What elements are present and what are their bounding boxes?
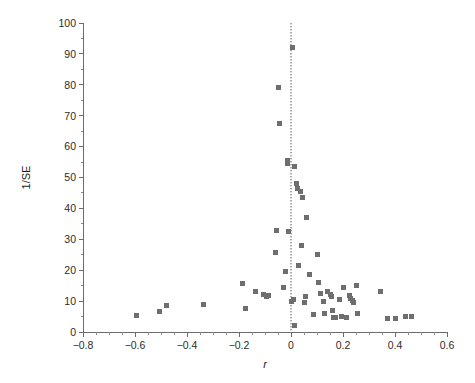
data-point (285, 161, 290, 166)
data-point (339, 314, 344, 319)
y-tick-label: 30 (64, 233, 76, 245)
data-point (292, 323, 297, 328)
y-tick-label: 0 (70, 326, 76, 338)
x-axis-title: r (263, 358, 268, 370)
x-tick-label: 0.6 (440, 339, 455, 351)
scatter-plot-canvas: 0102030405060708090100−0.8−0.6−0.4−0.200… (0, 0, 475, 383)
y-tick-label: 40 (64, 202, 76, 214)
data-point (385, 316, 390, 321)
data-point (299, 243, 304, 248)
data-point (337, 297, 342, 302)
data-point (378, 289, 383, 294)
data-point (286, 229, 291, 234)
data-point (330, 308, 335, 313)
data-point (273, 250, 278, 255)
data-point (283, 269, 288, 274)
y-tick-label: 20 (64, 264, 76, 276)
data-point (243, 306, 248, 311)
x-tick-label: −0.2 (229, 339, 250, 351)
y-tick-label: 90 (64, 48, 76, 60)
y-tick-label: 100 (58, 17, 76, 29)
data-point (355, 311, 360, 316)
data-point (303, 294, 308, 299)
data-point (344, 315, 349, 320)
data-point (304, 215, 309, 220)
data-point (322, 311, 327, 316)
y-tick-label: 80 (64, 79, 76, 91)
data-point (164, 303, 169, 308)
data-point (354, 283, 359, 288)
data-point (393, 316, 398, 321)
data-point (294, 181, 299, 186)
data-point (274, 228, 279, 233)
data-point (157, 309, 162, 314)
data-point (290, 45, 295, 50)
data-point (351, 300, 356, 305)
data-point (341, 285, 346, 290)
data-point (298, 189, 303, 194)
y-tick-label: 50 (64, 171, 76, 183)
data-point (409, 314, 414, 319)
data-point (266, 293, 271, 298)
y-tick-label: 10 (64, 295, 76, 307)
data-point (311, 312, 316, 317)
data-point (316, 280, 321, 285)
y-axis-title: 1/SE (20, 166, 32, 190)
data-point (253, 289, 258, 294)
data-point (329, 294, 334, 299)
data-point (291, 297, 296, 302)
data-point (281, 285, 286, 290)
data-point (318, 291, 323, 296)
data-point (300, 195, 305, 200)
data-point (277, 121, 282, 126)
data-point (307, 272, 312, 277)
data-point (321, 299, 326, 304)
x-tick-label: 0 (288, 339, 294, 351)
data-point (276, 85, 281, 90)
x-tick-label: −0.4 (177, 339, 198, 351)
data-point (333, 315, 338, 320)
x-tick-label: 0.4 (388, 339, 403, 351)
data-point (403, 314, 408, 319)
funnel-plot-figure: 0102030405060708090100−0.8−0.6−0.4−0.200… (0, 0, 475, 383)
data-point (315, 252, 320, 257)
data-point (292, 164, 297, 169)
y-tick-label: 70 (64, 110, 76, 122)
data-point (240, 281, 245, 286)
x-tick-label: 0.2 (336, 339, 351, 351)
data-point (201, 302, 206, 307)
x-tick-label: −0.8 (73, 339, 94, 351)
data-point (134, 313, 139, 318)
x-tick-label: −0.6 (125, 339, 146, 351)
y-tick-label: 60 (64, 140, 76, 152)
data-point (302, 300, 307, 305)
data-point (296, 263, 301, 268)
